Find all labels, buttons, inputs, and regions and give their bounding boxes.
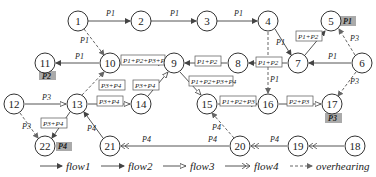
svg-text:flow2: flow2 <box>128 160 153 172</box>
svg-text:10: 10 <box>105 57 117 69</box>
svg-text:P1+P2: P1+P2 <box>297 33 319 41</box>
svg-text:15: 15 <box>202 98 214 110</box>
svg-text:P3: P3 <box>328 114 337 123</box>
node-15: 15 <box>197 94 217 114</box>
svg-text:P3: P3 <box>349 34 359 43</box>
node-1: 1 <box>68 11 88 31</box>
node-4: 4 <box>258 11 278 31</box>
svg-text:P4: P4 <box>141 135 151 144</box>
svg-text:P4: P4 <box>211 123 221 132</box>
node-14: 14 <box>131 94 151 114</box>
svg-text:flow4: flow4 <box>254 160 279 172</box>
svg-text:P1+P2: P1+P2 <box>257 59 279 67</box>
svg-text:P1: P1 <box>74 52 84 61</box>
node-19: 19 <box>288 136 308 156</box>
network-flow-diagram: P1 P1 P1 P1 P1 P1 P1 P1 P3 P3 P3 P3 P4 P… <box>0 0 376 177</box>
svg-text:P1+P2+P3+P4: P1+P2+P3+P4 <box>190 78 237 86</box>
svg-text:22: 22 <box>40 140 51 152</box>
svg-text:13: 13 <box>72 98 84 110</box>
svg-text:6: 6 <box>359 57 365 69</box>
svg-text:16: 16 <box>263 98 275 110</box>
svg-text:P1+P2+P3+P4: P1+P2+P3+P4 <box>122 57 169 65</box>
svg-text:P3+P4: P3+P4 <box>100 82 122 90</box>
svg-text:P1+P2+P3: P1+P2+P3 <box>221 98 255 106</box>
node-8: 8 <box>228 53 248 73</box>
node-9: 9 <box>164 53 184 73</box>
node-11: 11 <box>35 53 55 73</box>
svg-text:17: 17 <box>327 98 339 110</box>
svg-text:P3+P4: P3+P4 <box>98 98 120 106</box>
svg-text:3: 3 <box>204 15 210 27</box>
svg-text:P1: P1 <box>269 75 279 84</box>
svg-text:8: 8 <box>235 57 241 69</box>
svg-text:P1: P1 <box>105 9 115 18</box>
svg-text:2: 2 <box>138 15 144 27</box>
svg-text:20: 20 <box>235 140 247 152</box>
node-16: 16 <box>258 94 278 114</box>
svg-text:P1: P1 <box>327 52 337 61</box>
svg-text:14: 14 <box>136 98 148 110</box>
svg-text:overhearing: overhearing <box>316 160 370 172</box>
svg-text:P2+P3: P2+P3 <box>288 98 310 106</box>
node-7: 7 <box>288 53 308 73</box>
svg-text:11: 11 <box>40 57 51 69</box>
svg-text:19: 19 <box>293 140 305 152</box>
svg-text:P4: P4 <box>269 135 279 144</box>
legend: flow1 flow2 flow3 flow4 overhearing <box>40 160 370 172</box>
node-18: 18 <box>345 136 365 156</box>
node-10: 10 <box>100 53 120 73</box>
svg-text:18: 18 <box>350 140 362 152</box>
svg-text:12: 12 <box>9 98 20 110</box>
svg-text:4: 4 <box>265 15 271 27</box>
svg-text:9: 9 <box>171 57 177 69</box>
node-21: 21 <box>100 136 120 156</box>
svg-text:P1: P1 <box>343 17 352 26</box>
node-3: 3 <box>197 11 217 31</box>
node-12: 12 <box>4 94 24 114</box>
svg-text:7: 7 <box>295 57 301 69</box>
node-20: 20 <box>230 136 250 156</box>
svg-text:P3+P4: P3+P4 <box>134 82 156 90</box>
svg-text:21: 21 <box>105 140 116 152</box>
svg-text:5: 5 <box>328 15 334 27</box>
node-5: 5 <box>321 11 341 31</box>
node-2: 2 <box>131 11 151 31</box>
svg-text:P1: P1 <box>79 36 89 45</box>
svg-text:P3: P3 <box>41 93 51 102</box>
svg-text:P1+P2: P1+P2 <box>196 58 218 66</box>
node-22: 22 <box>35 136 55 156</box>
svg-text:P3: P3 <box>349 77 359 86</box>
svg-text:P4: P4 <box>58 142 67 151</box>
svg-text:flow3: flow3 <box>190 160 215 172</box>
node-17: 17 <box>322 94 342 114</box>
svg-text:P1: P1 <box>169 9 179 18</box>
svg-text:1: 1 <box>75 15 81 27</box>
svg-text:P3: P3 <box>21 122 31 131</box>
svg-text:P4: P4 <box>207 135 217 144</box>
svg-text:flow1: flow1 <box>66 160 90 172</box>
node-13: 13 <box>67 94 87 114</box>
node-6: 6 <box>352 53 372 73</box>
svg-text:P1: P1 <box>275 38 285 47</box>
svg-text:P4: P4 <box>86 124 96 133</box>
svg-text:P3+P4: P3+P4 <box>42 120 64 128</box>
svg-text:P1: P1 <box>233 9 243 18</box>
